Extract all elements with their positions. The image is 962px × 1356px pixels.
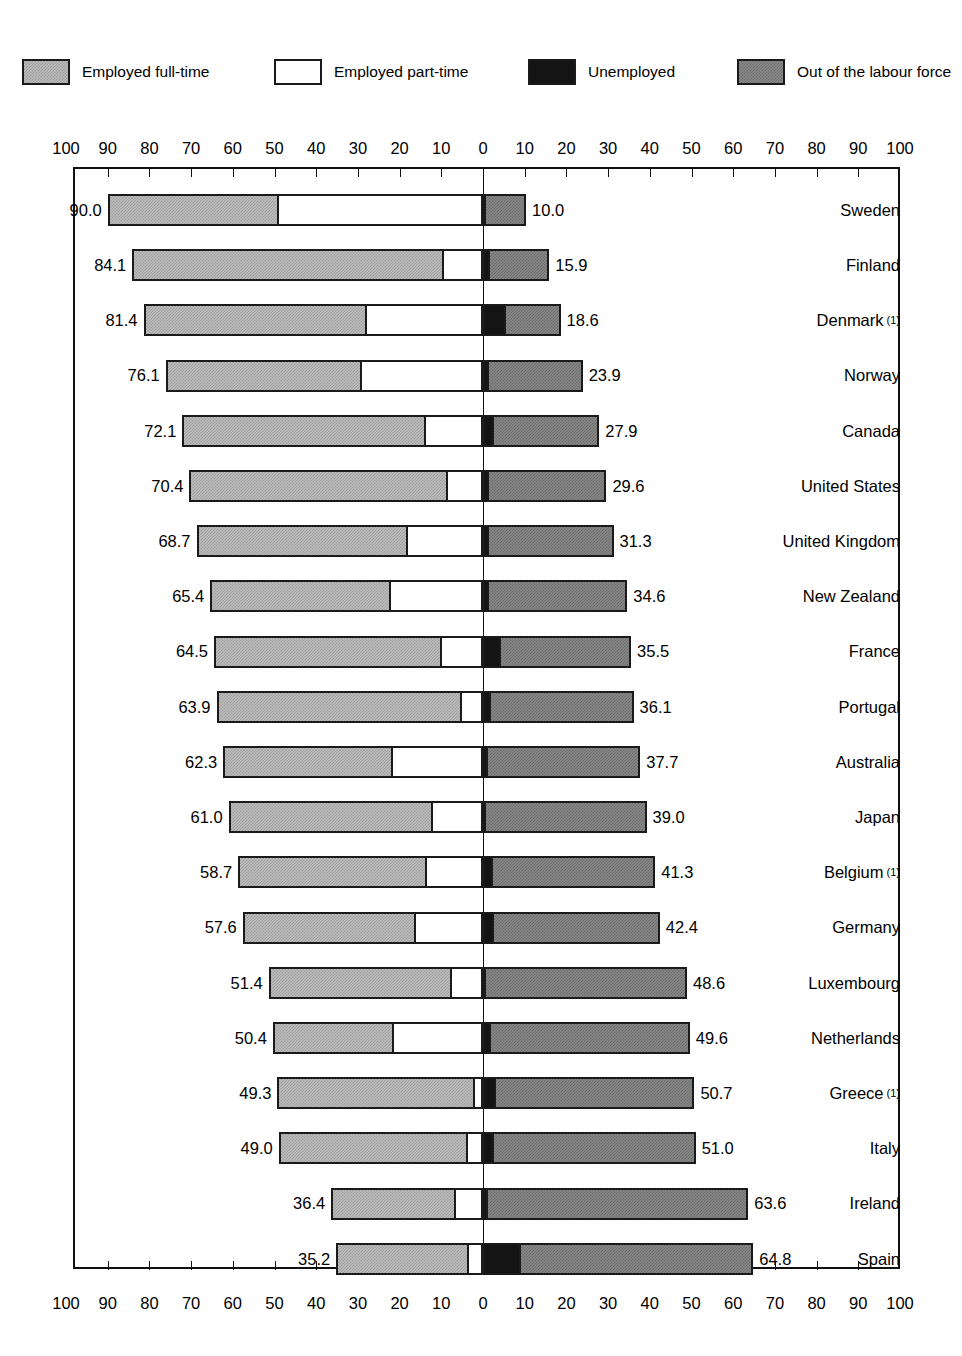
bar-row[interactable]: 49.350.7Greece(1)	[0, 1077, 962, 1109]
country-label[interactable]: United States	[801, 470, 900, 502]
segment-out-of-labour-force[interactable]	[504, 304, 561, 336]
country-label[interactable]: Germany	[832, 912, 900, 944]
bar-row[interactable]: 81.418.6Denmark(1)	[0, 304, 962, 336]
segment-employed-full-time[interactable]	[197, 525, 408, 557]
segment-out-of-labour-force[interactable]	[499, 636, 631, 668]
segment-employed-part-time[interactable]	[391, 746, 483, 778]
bar-row[interactable]: 61.039.0Japan	[0, 801, 962, 833]
segment-out-of-labour-force[interactable]	[484, 801, 647, 833]
segment-employed-full-time[interactable]	[166, 360, 363, 392]
bar-row[interactable]: 51.448.6Luxembourg	[0, 967, 962, 999]
country-label[interactable]: Japan	[855, 801, 900, 833]
country-label[interactable]: Belgium(1)	[824, 856, 900, 888]
country-label[interactable]: Ireland	[850, 1188, 900, 1220]
segment-out-of-labour-force[interactable]	[491, 856, 656, 888]
segment-out-of-labour-force[interactable]	[489, 1022, 689, 1054]
segment-out-of-labour-force[interactable]	[487, 470, 606, 502]
segment-employed-full-time[interactable]	[210, 580, 391, 612]
segment-employed-part-time[interactable]	[446, 470, 483, 502]
country-label[interactable]: Norway	[844, 360, 900, 392]
segment-employed-full-time[interactable]	[132, 249, 444, 281]
segment-out-of-labour-force[interactable]	[492, 415, 599, 447]
segment-employed-part-time[interactable]	[414, 912, 483, 944]
segment-employed-part-time[interactable]	[365, 304, 483, 336]
bar-row[interactable]: 49.051.0Italy	[0, 1132, 962, 1164]
segment-employed-full-time[interactable]	[182, 415, 426, 447]
bar-row[interactable]: 70.429.6United States	[0, 470, 962, 502]
country-label[interactable]: Sweden	[840, 194, 900, 226]
segment-employed-full-time[interactable]	[214, 636, 442, 668]
country-label[interactable]: Italy	[870, 1132, 900, 1164]
country-label[interactable]: France	[849, 636, 900, 668]
segment-out-of-labour-force[interactable]	[489, 691, 634, 723]
segment-out-of-labour-force[interactable]	[488, 249, 550, 281]
segment-employed-full-time[interactable]	[269, 967, 452, 999]
segment-employed-full-time[interactable]	[229, 801, 433, 833]
segment-out-of-labour-force[interactable]	[494, 1077, 694, 1109]
bar-row[interactable]: 72.127.9Canada	[0, 415, 962, 447]
segment-out-of-labour-force[interactable]	[484, 194, 526, 226]
country-label[interactable]: Australia	[836, 746, 900, 778]
segment-employed-full-time[interactable]	[279, 1132, 468, 1164]
segment-out-of-labour-force[interactable]	[492, 912, 660, 944]
segment-employed-part-time[interactable]	[389, 580, 483, 612]
segment-out-of-labour-force[interactable]	[486, 1188, 748, 1220]
segment-employed-part-time[interactable]	[431, 801, 483, 833]
segment-out-of-labour-force[interactable]	[486, 746, 640, 778]
segment-out-of-labour-force[interactable]	[492, 1132, 695, 1164]
segment-employed-full-time[interactable]	[273, 1022, 394, 1054]
segment-employed-full-time[interactable]	[108, 194, 279, 226]
segment-employed-part-time[interactable]	[442, 249, 483, 281]
segment-employed-part-time[interactable]	[473, 1077, 483, 1109]
segment-employed-part-time[interactable]	[277, 194, 483, 226]
bar-row[interactable]: 76.123.9Norway	[0, 360, 962, 392]
bar-row[interactable]: 90.010.0Sweden	[0, 194, 962, 226]
segment-employed-part-time[interactable]	[360, 360, 483, 392]
bar-row[interactable]: 63.936.1Portugal	[0, 691, 962, 723]
segment-employed-part-time[interactable]	[466, 1132, 483, 1164]
segment-employed-full-time[interactable]	[331, 1188, 456, 1220]
segment-employed-full-time[interactable]	[189, 470, 448, 502]
segment-employed-part-time[interactable]	[392, 1022, 483, 1054]
segment-out-of-labour-force[interactable]	[519, 1243, 754, 1275]
segment-out-of-labour-force[interactable]	[484, 967, 687, 999]
segment-employed-full-time[interactable]	[336, 1243, 469, 1275]
segment-employed-part-time[interactable]	[425, 856, 483, 888]
segment-employed-part-time[interactable]	[467, 1243, 483, 1275]
bar-row[interactable]: 68.731.3United Kingdom	[0, 525, 962, 557]
bar-row[interactable]: 84.115.9Finland	[0, 249, 962, 281]
segment-employed-part-time[interactable]	[440, 636, 483, 668]
country-label[interactable]: Canada	[842, 415, 900, 447]
country-label[interactable]: United Kingdom	[783, 525, 900, 557]
bar-row[interactable]: 57.642.4Germany	[0, 912, 962, 944]
country-label[interactable]: New Zealand	[803, 580, 900, 612]
segment-employed-full-time[interactable]	[223, 746, 393, 778]
bar-row[interactable]: 62.337.7Australia	[0, 746, 962, 778]
segment-unemployed[interactable]	[483, 304, 506, 336]
segment-employed-part-time[interactable]	[424, 415, 483, 447]
country-label[interactable]: Greece(1)	[829, 1077, 900, 1109]
segment-employed-part-time[interactable]	[454, 1188, 483, 1220]
segment-employed-full-time[interactable]	[144, 304, 368, 336]
country-label[interactable]: Netherlands	[811, 1022, 900, 1054]
segment-out-of-labour-force[interactable]	[487, 580, 627, 612]
bar-row[interactable]: 64.535.5France	[0, 636, 962, 668]
country-label[interactable]: Finland	[846, 249, 900, 281]
segment-employed-part-time[interactable]	[450, 967, 483, 999]
bar-row[interactable]: 65.434.6New Zealand	[0, 580, 962, 612]
segment-employed-full-time[interactable]	[277, 1077, 475, 1109]
country-label[interactable]: Luxembourg	[808, 967, 900, 999]
segment-employed-part-time[interactable]	[460, 691, 483, 723]
bar-row[interactable]: 58.741.3Belgium(1)	[0, 856, 962, 888]
bar-row[interactable]: 35.264.8Spain	[0, 1243, 962, 1275]
country-label[interactable]: Portugal	[839, 691, 900, 723]
bar-row[interactable]: 36.463.6Ireland	[0, 1188, 962, 1220]
bar-row[interactable]: 50.449.6Netherlands	[0, 1022, 962, 1054]
segment-employed-full-time[interactable]	[217, 691, 462, 723]
segment-employed-full-time[interactable]	[238, 856, 427, 888]
country-label[interactable]: Denmark(1)	[817, 304, 900, 336]
segment-out-of-labour-force[interactable]	[487, 525, 613, 557]
segment-out-of-labour-force[interactable]	[487, 360, 583, 392]
segment-employed-part-time[interactable]	[406, 525, 483, 557]
segment-employed-full-time[interactable]	[243, 912, 416, 944]
